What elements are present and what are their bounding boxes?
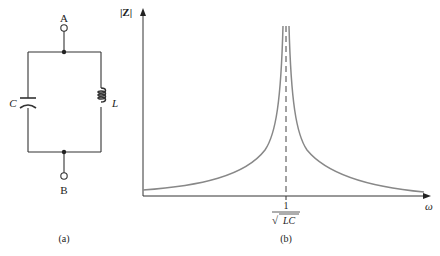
impedance-curve-left <box>143 26 283 190</box>
capacitor-plate-bottom <box>20 105 36 108</box>
y-axis-arrow-icon <box>140 8 146 16</box>
caption-a: (a) <box>58 233 69 245</box>
terminal-a <box>61 25 67 31</box>
sqrt-symbol: √ <box>272 214 279 226</box>
x-axis-label: ω <box>425 200 433 212</box>
lc-circuit-figure: A B C L (a) |Z| ω 1 √ LC (b) <box>0 0 440 256</box>
impedance-plot <box>140 8 431 200</box>
capacitor-label: C <box>9 97 17 109</box>
resonance-numerator: 1 <box>284 200 289 211</box>
circuit-diagram <box>20 25 106 179</box>
caption-b: (b) <box>280 233 292 245</box>
inductor-coil <box>98 88 106 102</box>
terminal-b-label: B <box>60 184 67 196</box>
y-axis-label: |Z| <box>120 6 132 18</box>
x-axis-arrow-icon <box>423 193 431 199</box>
terminal-b <box>61 173 67 179</box>
inductor-label: L <box>111 97 118 109</box>
junction-bottom <box>62 150 66 154</box>
impedance-curve-right <box>289 26 424 192</box>
terminal-a-label: A <box>60 12 68 24</box>
junction-top <box>62 50 66 54</box>
resonance-denominator: LC <box>282 215 296 226</box>
